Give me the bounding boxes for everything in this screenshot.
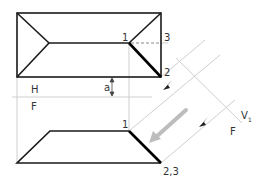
hip-line xyxy=(129,13,161,43)
label-point3-top: 3 xyxy=(164,32,170,43)
dimension-a xyxy=(110,78,114,96)
label-point23-front: 2,3 xyxy=(163,166,179,177)
label-fold-v1: V xyxy=(241,110,248,121)
fold-line-fv1 xyxy=(176,58,242,123)
label-fold-f-aux: F xyxy=(230,126,236,137)
highlight-edge-12-top xyxy=(129,43,161,77)
projector-point23-aux xyxy=(161,100,235,163)
label-point1-top: 1 xyxy=(122,32,128,43)
hip-line xyxy=(17,13,49,43)
label-fold-v1-sub: 1 xyxy=(248,116,252,123)
construction-lines xyxy=(12,40,242,163)
label-point1-front: 1 xyxy=(122,119,128,130)
label-fold-f: F xyxy=(31,101,37,112)
label-dimension-a: a xyxy=(104,82,110,93)
label-fold-h: H xyxy=(31,84,39,95)
sight-arrow-icon xyxy=(149,110,186,143)
label-point2-top: 2 xyxy=(164,67,170,78)
hip-line xyxy=(17,43,49,77)
top-view xyxy=(17,13,161,77)
roof-drawing: 1 3 2 H F a 1 2,3 V 1 F xyxy=(0,0,263,182)
roof-outline-front xyxy=(17,131,161,163)
projection-arrow-icon xyxy=(163,80,172,90)
projection-arrow-icon xyxy=(199,117,208,127)
front-view xyxy=(17,131,161,163)
roof-outline-top xyxy=(17,13,161,77)
